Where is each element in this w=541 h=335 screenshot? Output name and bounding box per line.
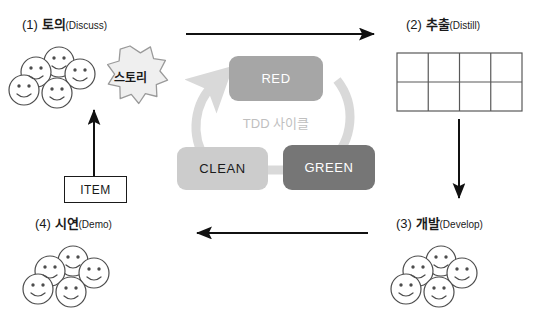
label-develop-en: (Develop) [440,219,483,230]
label-discuss: (1) 토의(Discuss) [22,14,107,33]
label-distill-ko: 추출 [426,17,450,32]
tdd-box-clean[interactable]: CLEAN [177,147,268,190]
distill-table [397,53,522,111]
label-distill: (2) 추출(Distill) [406,14,480,33]
tdd-cycle-title: TDD 사이클 [216,113,336,132]
item-box[interactable]: ITEM [64,176,127,203]
story-label: 스토리 [98,68,162,85]
connector-arrows-layer [0,0,541,335]
tdd-box-red[interactable]: RED [229,56,323,101]
label-demo-en: (Demo) [79,219,112,230]
label-develop-number: (3) [396,216,412,231]
label-discuss-number: (1) [22,17,38,32]
label-demo-ko: 시연 [55,216,79,231]
label-develop-ko: 개발 [416,216,440,231]
discuss-people [9,47,95,108]
label-discuss-ko: 토의 [42,17,66,32]
diagram-canvas: (1) 토의(Discuss) (2) 추출(Distill) (3) 개발(D… [0,0,541,335]
demo-people [23,246,109,307]
label-develop: (3) 개발(Develop) [396,213,483,232]
label-demo: (4) 시연(Demo) [35,213,112,232]
label-discuss-en: (Discuss) [66,20,108,31]
label-demo-number: (4) [35,216,51,231]
develop-people [391,246,477,307]
tdd-box-green[interactable]: GREEN [283,145,375,190]
label-distill-number: (2) [406,17,422,32]
label-distill-en: (Distill) [450,20,481,31]
